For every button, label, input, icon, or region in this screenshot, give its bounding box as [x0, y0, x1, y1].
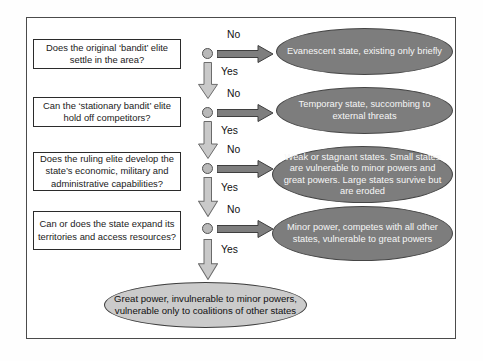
yes-label-2: Yes [221, 125, 238, 136]
outcome-oval-2: Temporary state, succombing to external … [276, 87, 453, 134]
outcome-text-2: Temporary state, succombing to external … [286, 99, 443, 121]
connector-node-1 [202, 48, 213, 59]
yes-label-1: Yes [221, 66, 238, 77]
yes-label-3: Yes [221, 182, 238, 193]
outcome-oval-4: Minor power, competes with all other sta… [272, 206, 453, 261]
final-outcome-text: Great power, invulnerable to minor power… [111, 293, 300, 316]
question-box-4: Can or does the state expand its territo… [33, 211, 181, 250]
question-text-1: Does the original ‘bandit’ elite settle … [37, 42, 177, 66]
arrow-down-icon-2 [198, 121, 218, 159]
arrow-right-icon-1 [217, 45, 274, 63]
question-text-3: Does the ruling elite develop the state’… [37, 153, 177, 190]
connector-node-4 [202, 223, 213, 234]
outcome-oval-3: Weak or stagnant states. Small states ar… [272, 146, 453, 203]
outcome-text-3: Weak or stagnant states. Small states ar… [278, 152, 447, 197]
arrow-down-icon-4 [198, 239, 218, 280]
question-box-1: Does the original ‘bandit’ elite settle … [33, 39, 181, 69]
no-label-4: No [227, 204, 240, 215]
question-text-4: Can or does the state expand its territo… [37, 218, 177, 242]
arrow-down-icon-1 [198, 62, 218, 99]
arrow-right-icon-3 [217, 160, 274, 178]
no-label-3: No [227, 144, 240, 155]
connector-node-3 [202, 163, 213, 174]
outcome-text-4: Minor power, competes with all other sta… [282, 222, 443, 244]
arrow-right-icon-2 [217, 104, 274, 122]
arrow-right-icon-4 [217, 220, 274, 238]
question-box-2: Can the ‘stationary bandit’ elite hold o… [33, 97, 181, 127]
flowchart-figure: Does the original ‘bandit’ elite settle … [0, 0, 483, 361]
outcome-oval-1: Evanescent state, existing only briefly [276, 28, 453, 75]
question-text-2: Can the ‘stationary bandit’ elite hold o… [37, 100, 177, 124]
yes-label-4: Yes [221, 244, 238, 255]
no-label-2: No [227, 88, 240, 99]
final-outcome-oval: Great power, invulnerable to minor power… [104, 282, 307, 328]
outcome-text-1: Evanescent state, existing only briefly [287, 46, 442, 57]
connector-node-2 [202, 107, 213, 118]
arrow-down-icon-3 [198, 177, 218, 217]
no-label-1: No [227, 29, 240, 40]
question-box-3: Does the ruling elite develop the state’… [33, 152, 181, 191]
